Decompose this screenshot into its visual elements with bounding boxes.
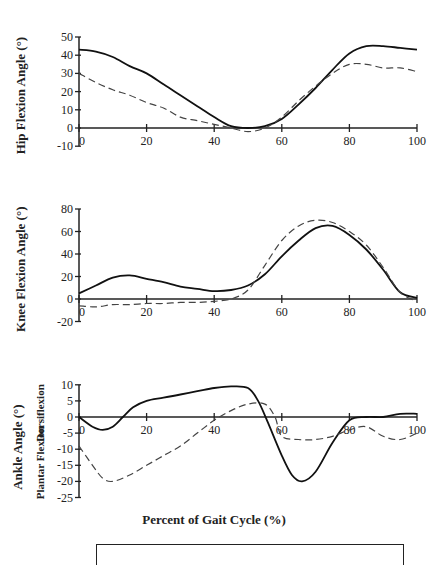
- hip-y-tick-label: 30: [61, 66, 73, 80]
- knee-y-tick-label: 40: [61, 247, 73, 261]
- plantar-flexion-label: Plantar Flexion: [34, 426, 46, 499]
- hip-x-tick-label: 0: [79, 134, 85, 148]
- ankle-x-tick-label: 0: [79, 423, 85, 437]
- hip-x-tick-label: 20: [141, 134, 153, 148]
- hip-x-tick-label: 100: [408, 134, 426, 148]
- knee-y-tick-label: 80: [61, 202, 73, 216]
- ankle-y-tick-label: -10: [57, 442, 73, 456]
- hip-x-tick-label: 80: [343, 134, 355, 148]
- knee-y-tick-label: 20: [61, 270, 73, 284]
- ankle-dashed-line: [79, 403, 417, 482]
- hip-x-tick-label: 40: [208, 134, 220, 148]
- hip-y-axis-label: Hip Flexion Angle (°): [13, 37, 28, 155]
- knee-y-tick-label: 0: [67, 292, 73, 306]
- ankle-solid-line: [79, 386, 417, 481]
- ankle-y-tick-label: -20: [57, 474, 73, 488]
- hip-y-tick-label: 10: [61, 103, 73, 117]
- hip-y-tick-label: 20: [61, 85, 73, 99]
- ankle-x-tick-label: 60: [276, 423, 288, 437]
- knee-x-tick-label: 20: [141, 305, 153, 319]
- knee-x-tick-label: 0: [79, 305, 85, 319]
- ankle-y-tick-label: 5: [67, 394, 73, 408]
- knee-dashed-line: [79, 220, 417, 307]
- ankle-y-tick-label: 0: [67, 410, 73, 424]
- knee-x-tick-label: 100: [408, 305, 426, 319]
- ankle-y-tick-label: 10: [61, 378, 73, 392]
- knee-x-tick-label: 80: [343, 305, 355, 319]
- knee-y-tick-label: -20: [57, 315, 73, 329]
- ankle-y-tick-label: -5: [63, 426, 73, 440]
- hip-y-tick-label: 50: [61, 30, 73, 44]
- knee-x-tick-label: 40: [208, 305, 220, 319]
- ankle-y-axis-label: Ankle Angle (°): [10, 404, 25, 489]
- knee-y-tick-label: 60: [61, 225, 73, 239]
- x-axis-label: Percent of Gait Cycle (%): [0, 512, 428, 528]
- knee-x-tick-label: 60: [276, 305, 288, 319]
- hip-x-tick-label: 60: [276, 134, 288, 148]
- ankle-y-tick-label: -25: [57, 491, 73, 505]
- ankle-x-tick-label: 40: [208, 423, 220, 437]
- ankle-x-tick-label: 100: [408, 423, 426, 437]
- legend-box: [96, 544, 404, 565]
- knee-y-axis-label: Knee Flexion Angle (°): [13, 207, 28, 332]
- ankle-y-tick-label: -15: [57, 458, 73, 472]
- hip-y-tick-label: 40: [61, 48, 73, 62]
- hip-y-tick-label: 0: [67, 121, 73, 135]
- hip-dashed-line: [79, 63, 417, 131]
- knee-solid-line: [79, 225, 417, 297]
- hip-solid-line: [79, 45, 417, 128]
- hip-y-tick-label: -10: [57, 139, 73, 153]
- ankle-x-tick-label: 20: [141, 423, 153, 437]
